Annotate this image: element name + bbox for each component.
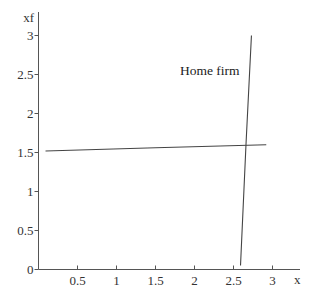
y-tick-label: 1 (27, 184, 34, 199)
home-firm-annotation: Home firm (180, 63, 240, 78)
y-tick-label: 1.5 (17, 145, 33, 160)
axes (39, 12, 301, 270)
home-firm-curve (241, 36, 252, 266)
y-tick-label: 3 (27, 28, 34, 43)
x-ticks: 0.511.522.53 (69, 266, 275, 288)
x-tick-label: 3 (269, 273, 276, 288)
y-tick-label: 2.5 (17, 67, 33, 82)
y-tick-label: 0.5 (17, 223, 33, 238)
y-tick-label: 0 (27, 262, 34, 277)
y-tick-label: 2 (27, 106, 34, 121)
x-tick-label: 1 (113, 273, 120, 288)
x-tick-label: 1.5 (147, 273, 163, 288)
x-tick-label: 0.5 (69, 273, 85, 288)
y-ticks: 00.511.522.53 (17, 28, 38, 277)
x-tick-label: 2.5 (225, 273, 241, 288)
chart: 0.511.522.53 00.511.522.53 x xf Home fir… (0, 0, 318, 298)
y-axis-label: xf (23, 10, 35, 25)
x-tick-label: 2 (191, 273, 198, 288)
x-axis-label: x (294, 272, 301, 287)
horizontal-curve (46, 145, 267, 151)
